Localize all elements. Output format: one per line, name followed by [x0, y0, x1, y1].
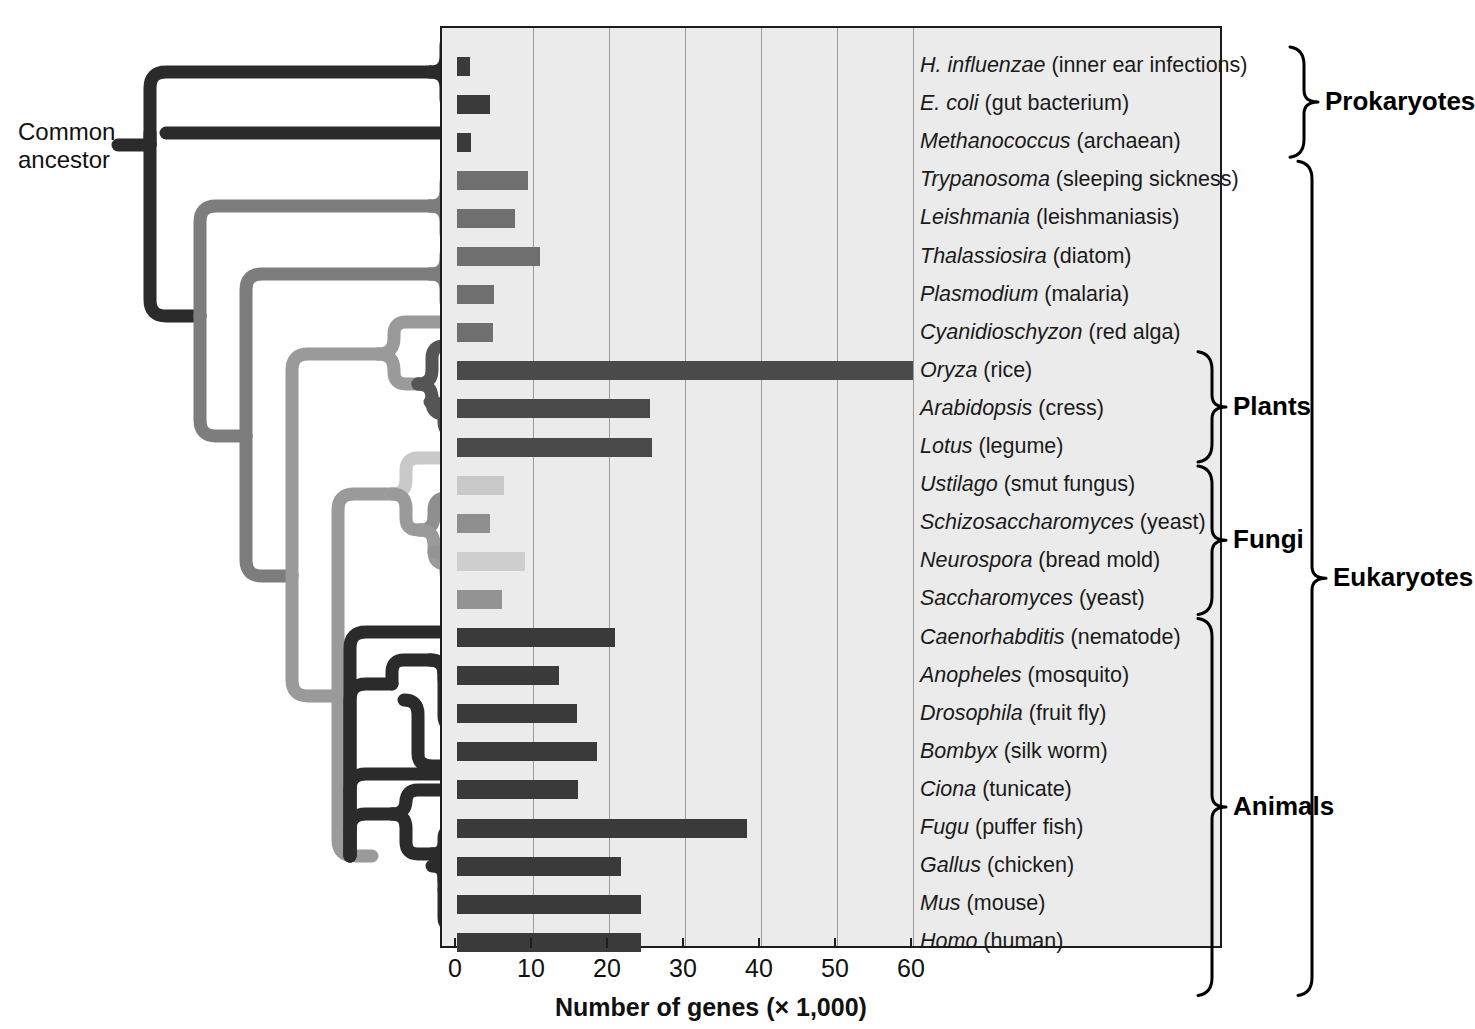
common-name: (leishmaniasis): [1030, 205, 1179, 229]
species-label-saccharomyces: Saccharomyces (yeast): [920, 588, 1145, 610]
bar-cyanidioschyzon: [457, 323, 493, 342]
x-tick-label-30: 30: [653, 956, 713, 981]
common-name: (fruit fly): [1023, 701, 1107, 725]
common-name: (yeast): [1073, 586, 1145, 610]
genus-name: Gallus: [920, 853, 981, 877]
tree-branch-angiosperm-stem: [378, 354, 418, 384]
bar-arabidopsis: [457, 399, 650, 418]
bracket-fungi: [1198, 466, 1226, 614]
x-tick-label-60: 60: [881, 956, 941, 981]
genus-name: Trypanosoma: [920, 167, 1050, 191]
common-name: (red alga): [1083, 320, 1181, 344]
tree-branch-trypanosomatid-stem: [200, 206, 430, 316]
x-tick-label-0: 0: [425, 956, 485, 981]
common-ancestor-label: Common ancestor: [18, 118, 115, 173]
species-label-mus: Mus (mouse): [920, 893, 1045, 915]
gridline-40: [761, 28, 762, 946]
genus-name: E. coli: [920, 91, 979, 115]
genus-name: Fugu: [920, 815, 969, 839]
genus-name: Saccharomyces: [920, 586, 1073, 610]
tree-branch-ascomycete-stem: [392, 494, 420, 530]
genus-name: Schizosaccharomyces: [920, 510, 1134, 534]
bar-fugu: [457, 819, 747, 838]
common-name: (nematode): [1065, 625, 1181, 649]
tree-tip-methanococcus: [166, 127, 458, 133]
common-name: (malaria): [1038, 282, 1129, 306]
bar-mus: [457, 895, 641, 914]
bar-lotus: [457, 438, 652, 457]
common-name: (cress): [1032, 396, 1104, 420]
common-name: (legume): [973, 434, 1064, 458]
genus-name: Bombyx: [920, 739, 998, 763]
gridline-10: [533, 28, 534, 946]
species-label-arabidopsis: Arabidopsis (cress): [920, 398, 1104, 420]
bar-h-influenzae: [457, 57, 470, 76]
group-label-prokaryotes: Prokaryotes: [1325, 86, 1475, 117]
gridline-20: [609, 28, 610, 946]
common-name: (gut bacterium): [979, 91, 1130, 115]
bar-gallus: [457, 857, 621, 876]
common-name: (smut fungus): [998, 472, 1135, 496]
species-label-drosophila: Drosophila (fruit fly): [920, 703, 1106, 725]
x-tick-label-40: 40: [729, 956, 789, 981]
bar-thalassiosira: [457, 247, 540, 266]
common-name: (mosquito): [1022, 663, 1130, 687]
common-name: (rice): [977, 358, 1032, 382]
x-tick-30: [682, 938, 684, 948]
tree-branch-opisthokont-stem: [292, 576, 338, 696]
x-tick-50: [834, 938, 836, 948]
bar-bombyx: [457, 742, 597, 761]
species-label-ustilago: Ustilago (smut fungus): [920, 474, 1135, 496]
x-tick-label-20: 20: [577, 956, 637, 981]
common-name: (silk worm): [998, 739, 1108, 763]
tree-branch-amniote-stem: [392, 814, 432, 854]
bar-methanococcus: [457, 133, 471, 152]
bar-saccharomyces: [457, 590, 502, 609]
species-label-methanococcus: Methanococcus (archaean): [920, 131, 1181, 153]
species-label-cyanidioschyzon: Cyanidioschyzon (red alga): [920, 322, 1181, 344]
tree-branch-euk-lower-stem: [200, 316, 246, 436]
bar-ciona: [457, 780, 578, 799]
genus-name: Ciona: [920, 777, 976, 801]
bracket-animals: [1198, 619, 1226, 996]
tree-branch-lower-stem: [150, 145, 200, 316]
x-tick-10: [530, 938, 532, 948]
genus-name: Thalassiosira: [920, 244, 1047, 268]
species-label-bombyx: Bombyx (silk worm): [920, 741, 1108, 763]
species-label-anopheles: Anopheles (mosquito): [920, 665, 1129, 687]
genus-name: Homo: [920, 929, 977, 953]
species-label-fugu: Fugu (puffer fish): [920, 817, 1083, 839]
genus-name: Caenorhabditis: [920, 625, 1065, 649]
species-label-lotus: Lotus (legume): [920, 436, 1063, 458]
genus-name: Lotus: [920, 434, 973, 458]
species-label-plasmodium: Plasmodium (malaria): [920, 284, 1129, 306]
common-name: (human): [977, 929, 1063, 953]
species-label-homo: Homo (human): [920, 931, 1063, 953]
genus-name: Neurospora: [920, 548, 1032, 572]
common-name: (archaean): [1071, 129, 1181, 153]
common-name: (bread mold): [1032, 548, 1160, 572]
gridline-60: [913, 28, 914, 946]
genus-name: Mus: [920, 891, 961, 915]
bar-homo: [457, 933, 641, 952]
x-tick-label-50: 50: [805, 956, 865, 981]
common-name: (chicken): [981, 853, 1074, 877]
group-label-animals: Animals: [1233, 791, 1334, 822]
group-label-plants: Plants: [1233, 391, 1311, 422]
bar-trypanosoma: [457, 171, 528, 190]
bar-plasmodium: [457, 285, 494, 304]
genus-name: Methanococcus: [920, 129, 1071, 153]
species-label-e-coli: E. coli (gut bacterium): [920, 93, 1129, 115]
bar-oryza: [457, 361, 913, 380]
common-name: (diatom): [1047, 244, 1132, 268]
genus-name: Drosophila: [920, 701, 1023, 725]
x-tick-20: [606, 938, 608, 948]
tree-branch-insect-stem: [392, 660, 430, 684]
common-name: (puffer fish): [969, 815, 1083, 839]
bracket-plants: [1198, 352, 1226, 462]
bar-anopheles: [457, 666, 559, 685]
genus-name: Cyanidioschyzon: [920, 320, 1083, 344]
genus-name: Ustilago: [920, 472, 998, 496]
group-label-eukaryotes: Eukaryotes: [1333, 562, 1473, 593]
genus-name: Plasmodium: [920, 282, 1038, 306]
